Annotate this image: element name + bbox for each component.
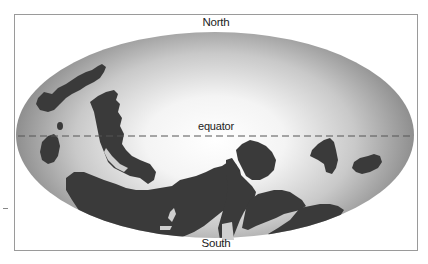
north-label: North xyxy=(202,16,229,28)
landmass-islet xyxy=(57,122,63,130)
margin-tick-mark xyxy=(3,208,8,209)
equator-label: equator xyxy=(198,120,234,132)
south-label: South xyxy=(201,237,230,249)
world-map xyxy=(0,0,428,264)
